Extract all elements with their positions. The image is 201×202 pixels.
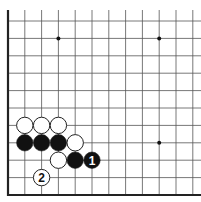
star-point — [157, 36, 161, 40]
white-stone-circle — [50, 117, 66, 133]
white-stone-circle — [17, 117, 33, 133]
white-stone — [33, 117, 49, 133]
go-board: 12 — [0, 0, 201, 202]
move-number-label: 1 — [89, 154, 96, 168]
black-stone — [67, 152, 83, 168]
white-stone-circle — [33, 117, 49, 133]
black-stone — [33, 135, 49, 151]
white-stone — [50, 152, 66, 168]
black-stone-circle — [33, 135, 49, 151]
black-stone-circle — [50, 135, 66, 151]
move-number-label: 2 — [38, 171, 45, 185]
white-stone — [17, 117, 33, 133]
white-stone — [67, 135, 83, 151]
white-stone — [50, 117, 66, 133]
board-edges — [7, 10, 201, 196]
grid-lines — [8, 10, 201, 195]
star-point — [56, 36, 60, 40]
white-stone: 2 — [33, 169, 49, 185]
star-point — [157, 141, 161, 145]
black-stone — [50, 135, 66, 151]
black-stone-circle — [67, 152, 83, 168]
black-stone — [17, 135, 33, 151]
white-stone-circle — [50, 152, 66, 168]
black-stone-circle — [17, 135, 33, 151]
black-stone: 1 — [84, 152, 100, 168]
white-stone-circle — [67, 135, 83, 151]
